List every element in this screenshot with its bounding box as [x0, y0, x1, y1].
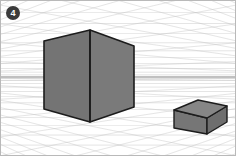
figure-number-badge: 4	[6, 6, 20, 20]
perspective-drawing-canvas: Two-point perspective construction grid …	[0, 0, 236, 156]
large-cube-right-face	[90, 30, 134, 122]
figure-number-badge-label: 4	[6, 6, 20, 20]
perspective-figure: Two-point perspective construction grid …	[0, 0, 236, 156]
large-cube	[44, 30, 134, 122]
large-cube-left-face	[44, 30, 90, 122]
